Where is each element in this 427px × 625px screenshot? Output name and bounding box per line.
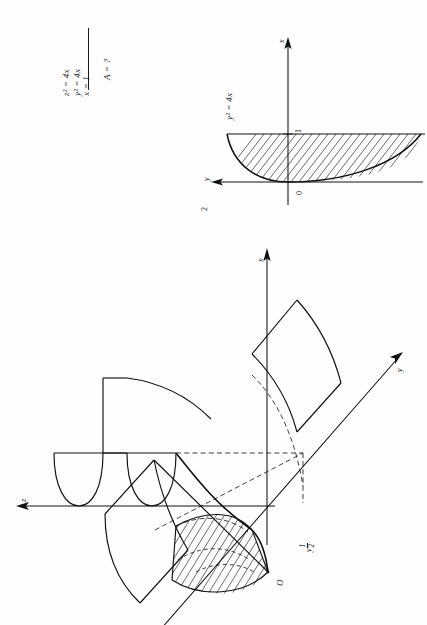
cylinder-y-outer-edge xyxy=(297,300,341,383)
plot-2d-canvas xyxy=(175,15,425,220)
axis-x-label-3d: x xyxy=(257,258,265,262)
plot-3d: x z y O y12 xyxy=(0,200,427,625)
cylinder-y-bottom-ruling-a xyxy=(297,383,341,432)
equation-divider xyxy=(88,28,89,90)
axis-y-label-3d: y xyxy=(396,368,404,372)
cylinder-y-lower-inner-edge xyxy=(154,460,188,550)
cylinder-z-upper-edge-a xyxy=(127,378,211,419)
cylinder-y-top-ruling-a xyxy=(252,300,297,354)
curve-equation-label-2d: y² = 4x xyxy=(225,93,234,120)
fraction-numerator: 1 xyxy=(299,543,307,549)
cylinder-z-front-rim xyxy=(54,453,103,506)
hatch-group-3d xyxy=(120,490,368,620)
patch-right-edge xyxy=(252,530,268,572)
origin-label-3d: O xyxy=(276,580,285,587)
plot-2d: x y 2 1 0 y² = 4x xyxy=(175,15,425,220)
axis-z-label-3d: z xyxy=(20,499,28,502)
cylinder-z-back-rim xyxy=(127,453,176,506)
parabola-curve-2d xyxy=(227,134,421,182)
tick-label-1-2d: 1 xyxy=(295,129,303,133)
fraction-denominator: 2 xyxy=(307,543,316,549)
cylinder-y-lower-left-edge xyxy=(105,514,140,603)
patch-left-edge xyxy=(172,526,176,580)
intersection-curve xyxy=(176,453,268,572)
origin-dot-3d xyxy=(267,571,270,574)
equation-given-3: x = 1 xyxy=(82,76,91,96)
fraction-stack: 12 xyxy=(299,543,316,549)
equation-given-1: z² = 4x xyxy=(62,69,71,96)
fraction-label-3d: y12 xyxy=(298,543,316,552)
plot-3d-canvas xyxy=(0,200,427,625)
axis-y-label-2d: y xyxy=(203,177,211,181)
base-guide-arc-2 xyxy=(196,565,254,573)
figure-page: z² = 4x y² = 4x x = 1 A = ? xyxy=(0,0,427,625)
origin-label-2d: 0 xyxy=(296,191,304,195)
cylinder-y-upper-right-edge xyxy=(252,354,297,432)
plane-x1-dashed-arc xyxy=(252,375,303,486)
fraction-symbol: y xyxy=(304,548,313,552)
equation-question: A = ? xyxy=(103,59,112,80)
axis-y-arrowhead-3d xyxy=(390,352,403,364)
axis-x-label-2d: x xyxy=(278,39,286,43)
